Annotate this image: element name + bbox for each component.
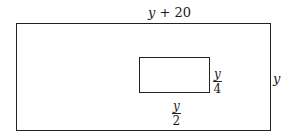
inner-height-label: y 4: [213, 68, 222, 95]
outer-width-label: y + 20: [148, 5, 191, 20]
inner-rectangle: [139, 57, 210, 93]
outer-height-label: y: [273, 71, 280, 86]
inner-width-label: y 2: [172, 100, 181, 127]
